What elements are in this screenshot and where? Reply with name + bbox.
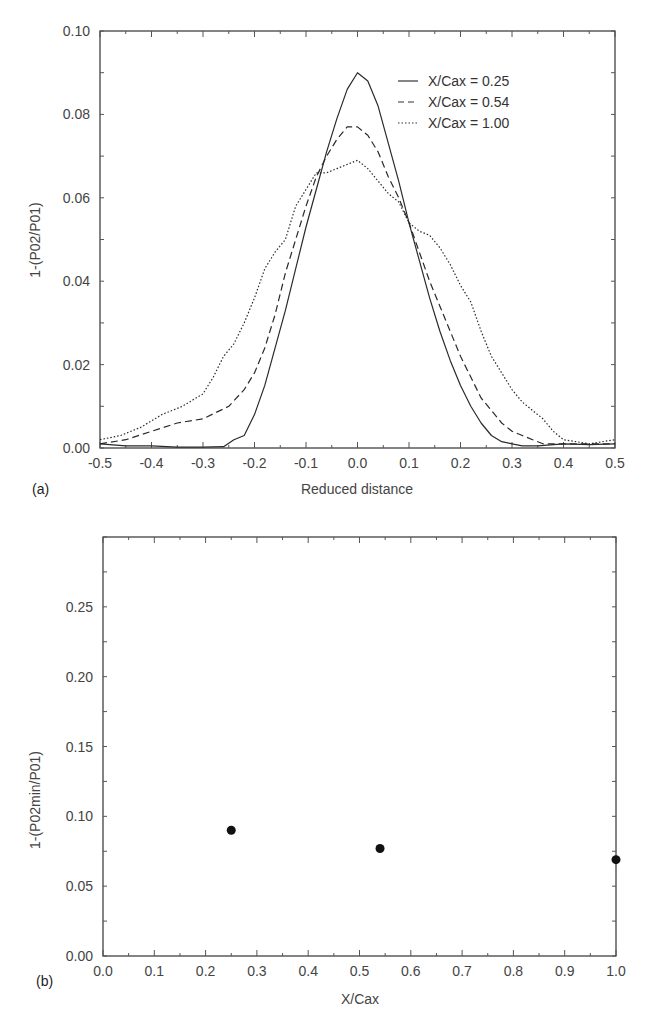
y-tick-label: 0.05 [66, 878, 93, 894]
panel-label-b: (b) [36, 973, 53, 989]
legend-label-1.00: X/Cax = 1.00 [428, 115, 510, 131]
x-tick-label: -0.3 [191, 455, 215, 471]
y-tick-label: 0.15 [66, 739, 93, 755]
y-tick-label: 0.02 [63, 357, 90, 373]
data-point [227, 826, 236, 835]
x-tick-label: 0.6 [401, 963, 421, 979]
y-tick-label: 0.08 [63, 106, 90, 122]
y-tick-label: 0.00 [63, 440, 90, 456]
legend-label-0.54: X/Cax = 0.54 [428, 94, 510, 110]
x-tick-label: 0.0 [348, 455, 368, 471]
x-tick-label: 0.4 [554, 455, 574, 471]
x-tick-label: 0.7 [452, 963, 472, 979]
x-tick-label: -0.2 [242, 455, 266, 471]
series-lines-a [100, 73, 615, 448]
panel-label-a: (a) [32, 481, 49, 497]
series-line-dashed [100, 127, 615, 444]
y-axis-title-a: 1-(P02/P01) [27, 202, 43, 277]
y-axis-title-b: 1-(P02min/P01) [27, 751, 43, 849]
y-tick-label: 0.04 [63, 273, 90, 289]
plot-frame-a [100, 31, 615, 448]
y-tick-label: 0.10 [63, 23, 90, 39]
figure: -0.5-0.4-0.3-0.2-0.10.00.10.20.30.40.50.… [0, 0, 648, 1036]
x-tick-label: 0.9 [555, 963, 575, 979]
x-tick-label: 0.8 [504, 963, 524, 979]
x-axis-title-b: X/Cax [341, 991, 379, 1007]
x-tick-label: 0.4 [298, 963, 318, 979]
x-tick-label: -0.5 [88, 455, 112, 471]
x-axis-title-a: Reduced distance [301, 481, 413, 497]
axis-ticks-a: -0.5-0.4-0.3-0.2-0.10.00.10.20.30.40.50.… [63, 23, 625, 471]
series-line-dotted [100, 160, 615, 444]
y-tick-label: 0.20 [66, 669, 93, 685]
x-tick-label: 0.1 [145, 963, 165, 979]
y-tick-label: 0.00 [66, 948, 93, 964]
x-tick-label: 0.3 [247, 963, 267, 979]
x-tick-label: 0.5 [350, 963, 370, 979]
x-tick-label: 0.2 [196, 963, 216, 979]
data-point [612, 855, 621, 864]
x-tick-label: 0.2 [451, 455, 471, 471]
x-tick-label: -0.1 [294, 455, 318, 471]
x-tick-label: 0.1 [399, 455, 419, 471]
axis-ticks-b: 0.00.10.20.30.40.50.60.70.80.91.00.000.0… [66, 537, 626, 979]
y-tick-label: 0.06 [63, 190, 90, 206]
chart-panel-a: -0.5-0.4-0.3-0.2-0.10.00.10.20.30.40.50.… [27, 23, 625, 497]
y-tick-label: 0.25 [66, 599, 93, 615]
chart-panel-b: 0.00.10.20.30.40.50.60.70.80.91.00.000.0… [27, 537, 626, 1007]
x-tick-label: 1.0 [606, 963, 626, 979]
x-tick-label: 0.3 [502, 455, 522, 471]
x-tick-label: 0.0 [93, 963, 113, 979]
data-point [376, 844, 385, 853]
x-tick-label: 0.5 [605, 455, 625, 471]
plot-frame-b [103, 537, 616, 956]
series-line-solid [100, 73, 615, 448]
legend-label-0.25: X/Cax = 0.25 [428, 73, 510, 89]
y-tick-label: 0.10 [66, 808, 93, 824]
series-points-b [227, 826, 621, 864]
legend-a: X/Cax = 0.25 X/Cax = 0.54 X/Cax = 1.00 [398, 73, 510, 131]
x-tick-label: -0.4 [139, 455, 163, 471]
